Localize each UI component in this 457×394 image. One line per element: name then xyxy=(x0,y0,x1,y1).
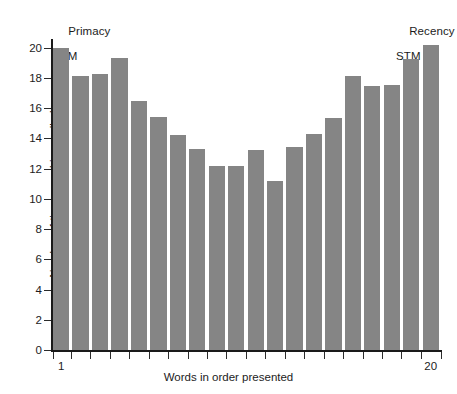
x-axis-tick xyxy=(207,352,208,359)
y-axis-tick xyxy=(44,78,51,79)
x-axis-tick xyxy=(363,352,364,359)
y-axis-tick-label: 2 xyxy=(36,314,42,326)
y-axis-tick xyxy=(44,290,51,291)
y-axis-tick xyxy=(44,108,51,109)
bar-1 xyxy=(53,48,69,350)
y-axis-tick xyxy=(44,350,51,351)
annotation-primacy-line1: Primacy xyxy=(68,25,110,37)
x-axis-tick xyxy=(441,352,442,359)
x-axis-tick xyxy=(382,352,383,359)
bar-18 xyxy=(384,85,400,350)
y-axis-tick xyxy=(44,138,51,139)
y-axis-tick-label: 12 xyxy=(29,163,42,175)
y-axis-tick-labels: 02468101214161820 xyxy=(14,40,42,350)
bar-3 xyxy=(92,74,108,350)
x-axis-tick xyxy=(188,352,189,359)
bar-5 xyxy=(131,101,147,351)
y-axis-tick-label: 18 xyxy=(29,72,42,84)
y-axis-tick-label: 6 xyxy=(36,253,42,265)
bar-14 xyxy=(306,134,322,350)
bar-17 xyxy=(364,86,380,350)
y-axis-tick-label: 8 xyxy=(36,223,42,235)
bar-2 xyxy=(72,76,88,350)
bar-12 xyxy=(267,181,283,350)
bar-8 xyxy=(189,149,205,350)
bar-13 xyxy=(286,147,302,350)
x-axis-tick xyxy=(90,352,91,359)
x-axis-tick xyxy=(71,352,72,359)
bar-15 xyxy=(325,118,341,350)
x-axis-tick xyxy=(343,352,344,359)
plot-area xyxy=(53,40,442,350)
y-axis-tick xyxy=(44,229,51,230)
bar-16 xyxy=(345,76,361,350)
x-axis-tick xyxy=(246,352,247,359)
x-axis-tick xyxy=(304,352,305,359)
annotation-recency-line1: Recency xyxy=(409,25,454,37)
y-axis-tick xyxy=(44,320,51,321)
x-axis-tick xyxy=(168,352,169,359)
x-axis-tick-label: 1 xyxy=(58,360,64,372)
y-axis-tick-label: 14 xyxy=(29,132,42,144)
bar-19 xyxy=(403,59,419,350)
x-axis-ticks xyxy=(53,352,442,359)
x-axis-title: Words in order presented xyxy=(0,371,457,383)
x-axis-tick xyxy=(149,352,150,359)
y-axis-tick xyxy=(44,199,51,200)
bar-11 xyxy=(248,150,264,350)
x-axis-tick-label: 20 xyxy=(424,360,437,372)
bar-9 xyxy=(209,166,225,350)
x-axis-tick xyxy=(53,352,54,359)
y-axis-tick xyxy=(44,48,51,49)
y-axis-tick xyxy=(44,169,51,170)
x-axis-tick xyxy=(226,352,227,359)
y-axis-tick-label: 10 xyxy=(29,193,42,205)
serial-position-bar-chart: Primacy LTM Recency STM Number of times … xyxy=(0,0,457,394)
bar-7 xyxy=(170,135,186,350)
y-axis-tick xyxy=(44,259,51,260)
bar-4 xyxy=(111,58,127,350)
x-axis-tick xyxy=(129,352,130,359)
y-axis-tick-label: 0 xyxy=(36,344,42,356)
y-axis-tick-label: 20 xyxy=(29,42,42,54)
x-axis-tick xyxy=(324,352,325,359)
x-axis-tick xyxy=(110,352,111,359)
bar-20 xyxy=(423,45,439,350)
y-axis-ticks xyxy=(44,40,51,350)
bar-6 xyxy=(150,117,166,350)
y-axis-tick-label: 16 xyxy=(29,102,42,114)
x-axis-tick xyxy=(285,352,286,359)
bar-10 xyxy=(228,166,244,350)
x-axis-tick xyxy=(265,352,266,359)
x-axis-tick xyxy=(401,352,402,359)
y-axis-tick-label: 4 xyxy=(36,284,42,296)
x-axis-tick xyxy=(421,352,422,359)
